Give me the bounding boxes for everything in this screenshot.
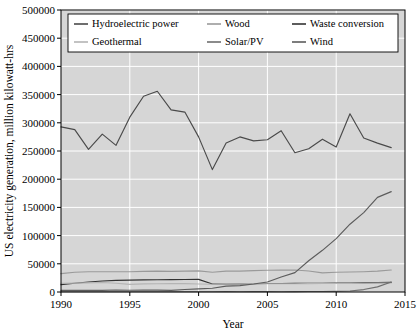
x-tick-label: 2000	[188, 298, 211, 310]
legend-label: Hydroelectric power	[92, 18, 179, 29]
y-tick-label: 150000	[22, 201, 56, 213]
y-tick-label: 100000	[22, 230, 56, 242]
y-tick-label: 500000	[22, 4, 56, 16]
chart-figure: 0500001000001500002000002500003000003500…	[0, 0, 419, 334]
y-tick-label: 400000	[22, 60, 56, 72]
chart-legend[interactable]: Hydroelectric powerWoodWaste conversionG…	[68, 14, 398, 52]
x-tick-label: 2010	[325, 298, 348, 310]
legend-label: Wind	[310, 36, 334, 47]
y-tick-label: 350000	[22, 89, 56, 101]
y-tick-label: 0	[50, 286, 56, 298]
x-tick-label: 2005	[256, 298, 279, 310]
legend-label: Solar/PV	[225, 36, 264, 47]
legend-label: Geothermal	[92, 36, 142, 47]
line-chart: 0500001000001500002000002500003000003500…	[0, 0, 419, 334]
y-tick-label: 450000	[22, 32, 56, 44]
y-tick-label: 200000	[22, 173, 56, 185]
x-axis-title: Year	[222, 318, 243, 330]
x-tick-label: 2015	[394, 298, 417, 310]
legend-label: Wood	[225, 18, 251, 29]
y-tick-label: 250000	[22, 145, 56, 157]
x-tick-label: 1990	[50, 298, 73, 310]
y-tick-label: 50000	[28, 258, 56, 270]
y-axis-title: US electricity generation, million kilow…	[3, 44, 16, 257]
legend-label: Waste conversion	[310, 18, 385, 29]
x-tick-label: 1995	[119, 298, 142, 310]
y-tick-label: 300000	[22, 117, 56, 129]
